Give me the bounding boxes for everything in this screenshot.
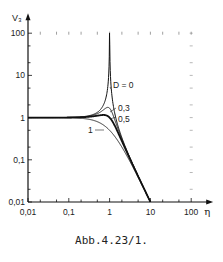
x-tick-label: 100 <box>184 207 198 217</box>
x-axis-label: η <box>204 206 210 217</box>
x-axis-arrow-icon <box>206 200 213 205</box>
y-axis-arrow-icon <box>26 13 31 20</box>
y-tick-label: 0,1 <box>13 155 25 165</box>
y-tick-label: 1 <box>20 113 25 123</box>
x-tick-label: 10 <box>146 207 156 217</box>
label-D-0_5: 0,5 <box>118 114 130 124</box>
curves <box>28 33 150 202</box>
y-tick-label: 100 <box>11 28 25 38</box>
x-tick-label: 0,01 <box>20 207 37 217</box>
y-axis-label: V₃ <box>12 13 22 23</box>
x-tick-label: 0,1 <box>63 207 75 217</box>
label-D-0: D = 0 <box>113 80 134 90</box>
resonance-chart: 0,010,11101000,010,1110100ηV₃D = 00,30,5… <box>0 0 223 262</box>
label-D-0_3: 0,3 <box>118 103 130 113</box>
label-D-1: 1 <box>88 125 93 135</box>
y-tick-label: 10 <box>16 70 26 80</box>
x-tick-label: 1 <box>107 207 112 217</box>
curve-D-0_3 <box>28 107 150 201</box>
y-tick-label: 0,01 <box>8 197 25 207</box>
figure-caption: Abb.4.23/1. <box>0 234 223 247</box>
